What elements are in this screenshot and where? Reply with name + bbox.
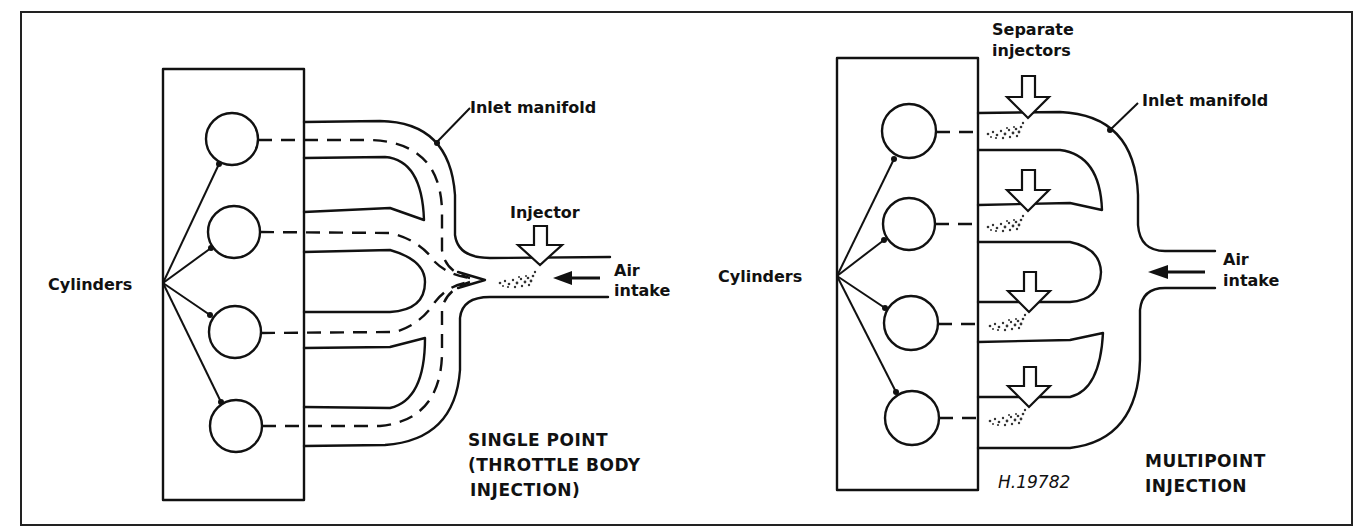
runner-wall-2 [304, 250, 425, 312]
cylinders-label: Cylinders [48, 275, 132, 294]
injector-arrow-icon [518, 226, 562, 265]
injector-label: Injector [510, 203, 580, 222]
cylinder-4 [885, 391, 939, 445]
cylinder-1 [206, 113, 258, 165]
cylinder-dash-connectors [935, 132, 976, 418]
air-intake-label-line1: Air [614, 261, 640, 280]
flow-path-2 [260, 232, 470, 278]
multipoint-title-line1: MULTIPOINT [1145, 451, 1266, 471]
air-intake-arrow-icon [1148, 265, 1205, 279]
fuel-spray [499, 271, 537, 288]
cylinder-1 [882, 104, 936, 158]
inlet-manifold-label: Inlet manifold [470, 98, 596, 117]
runner-wall-1 [304, 157, 424, 220]
separate-injectors-label-line2: injectors [992, 41, 1071, 60]
injector-arrow-icon [1008, 272, 1050, 312]
flow-path-3 [261, 282, 470, 333]
single-point-title-line2: (THROTTLE BODY [468, 455, 641, 475]
cylinders-leader-lines [163, 161, 224, 405]
manifold-outer-bottom [304, 297, 608, 446]
air-intake-label-line2: intake [1223, 271, 1280, 290]
cylinders-leader-lines [837, 156, 899, 395]
cylinder-2 [208, 206, 260, 258]
fuel-injection-diagram: Inlet manifold Injector Cylinders Air in… [0, 0, 1358, 532]
cylinder-3 [884, 296, 938, 350]
flow-arrowhead [458, 272, 485, 288]
cylinder-2 [883, 198, 935, 250]
air-intake-label-line2: intake [614, 281, 671, 300]
flow-path-4 [262, 282, 470, 426]
cylinders-label: Cylinders [718, 267, 802, 286]
runner-wall-3 [304, 338, 425, 408]
multipoint-title-line2: INJECTION [1145, 476, 1247, 496]
cylinder-4 [210, 400, 262, 452]
multipoint-diagram: Separate injectors Inlet manifold Cylind… [718, 20, 1280, 496]
figure-code: H.19782 [998, 472, 1070, 492]
single-point-diagram: Inlet manifold Injector Cylinders Air in… [48, 69, 671, 500]
injector-arrow-icon [1008, 367, 1050, 407]
separate-injectors-label-line1: Separate [992, 20, 1074, 39]
inlet-manifold-label: Inlet manifold [1142, 91, 1268, 110]
single-point-title-line3: INJECTION) [470, 480, 580, 500]
runner-wall-1 [978, 150, 1102, 210]
manifold-outer-top [304, 121, 610, 258]
air-intake-label-line1: Air [1223, 250, 1249, 269]
air-intake-arrow-icon [553, 271, 600, 285]
inlet-manifold-leader [437, 108, 470, 142]
separate-injectors [987, 76, 1050, 426]
cylinder-3 [209, 306, 261, 358]
inlet-manifold-leader [1110, 103, 1138, 130]
single-point-title-line1: SINGLE POINT [468, 430, 608, 450]
